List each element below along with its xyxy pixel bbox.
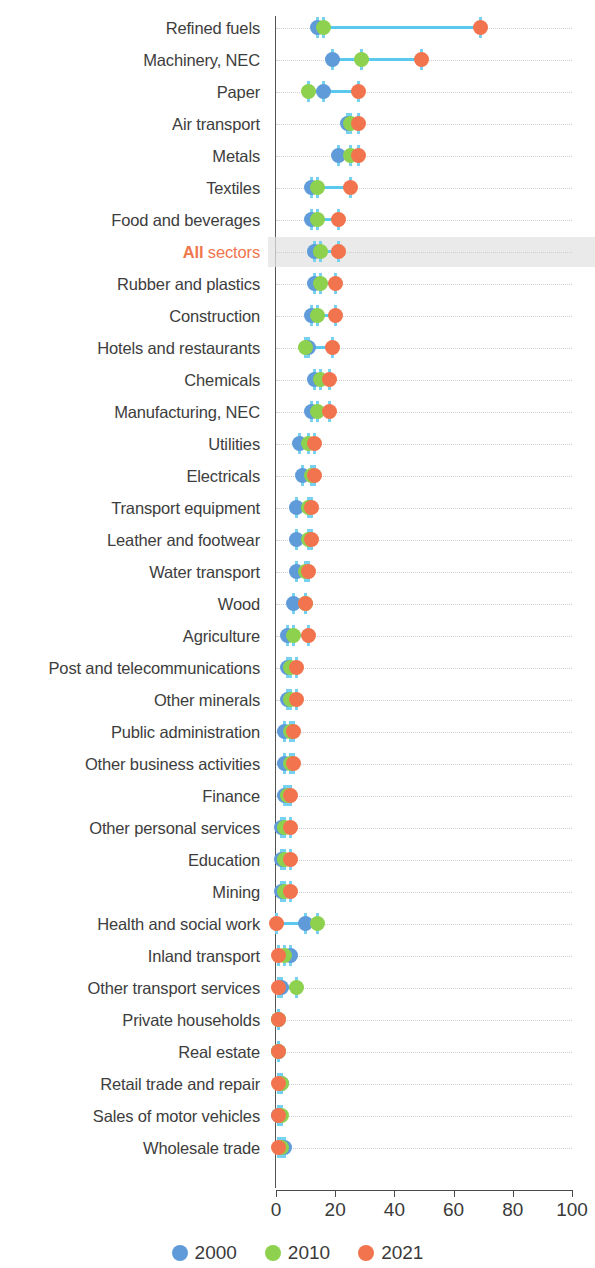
- gridline: [276, 508, 572, 509]
- gridline: [276, 604, 572, 605]
- data-point-2021[interactable]: [322, 404, 337, 419]
- gridline: [276, 124, 572, 125]
- data-point-2010[interactable]: [286, 628, 301, 643]
- category-label: Mining: [212, 876, 260, 908]
- data-point-2021[interactable]: [301, 564, 316, 579]
- data-point-2010[interactable]: [298, 340, 313, 355]
- data-point-2021[interactable]: [328, 308, 343, 323]
- data-point-2021[interactable]: [271, 1012, 286, 1027]
- gridline: [276, 668, 572, 669]
- data-point-2021[interactable]: [325, 340, 340, 355]
- data-point-2021[interactable]: [283, 788, 298, 803]
- data-point-2010[interactable]: [313, 244, 328, 259]
- chart-row: Water transport: [0, 556, 595, 588]
- data-point-2010[interactable]: [310, 180, 325, 195]
- gridline: [276, 1020, 572, 1021]
- data-point-2021[interactable]: [289, 692, 304, 707]
- data-point-2021[interactable]: [304, 532, 319, 547]
- gridline: [276, 700, 572, 701]
- category-label: Retail trade and repair: [100, 1068, 260, 1100]
- data-point-2021[interactable]: [301, 628, 316, 643]
- data-point-2021[interactable]: [351, 148, 366, 163]
- data-point-2021[interactable]: [414, 52, 429, 67]
- chart-row: All sectors: [0, 236, 595, 268]
- chart-row: Paper: [0, 76, 595, 108]
- chart-row: Food and beverages: [0, 204, 595, 236]
- category-label: All sectors: [183, 236, 260, 268]
- plot-area: Refined fuelsMachinery, NECPaperAir tran…: [0, 8, 595, 1180]
- data-point-2021[interactable]: [286, 724, 301, 739]
- chart-row: Agriculture: [0, 620, 595, 652]
- data-point-2010[interactable]: [316, 20, 331, 35]
- chart-row: Textiles: [0, 172, 595, 204]
- category-label: Machinery, NEC: [143, 44, 260, 76]
- chart-row: Refined fuels: [0, 12, 595, 44]
- data-point-2021[interactable]: [304, 500, 319, 515]
- data-point-2021[interactable]: [343, 180, 358, 195]
- data-point-2021[interactable]: [289, 660, 304, 675]
- data-point-2021[interactable]: [473, 20, 488, 35]
- category-label: Agriculture: [183, 620, 260, 652]
- gridline: [276, 1052, 572, 1053]
- gridline: [276, 1148, 572, 1149]
- gridline: [276, 988, 572, 989]
- data-point-2010[interactable]: [301, 84, 316, 99]
- x-axis-tick-label: 20: [325, 1199, 346, 1221]
- x-axis-tick: [335, 1190, 336, 1197]
- category-label: Other transport services: [88, 972, 260, 1004]
- category-label: Wood: [218, 588, 260, 620]
- chart-row: Finance: [0, 780, 595, 812]
- data-point-2021[interactable]: [283, 820, 298, 835]
- data-point-2010[interactable]: [354, 52, 369, 67]
- category-label: Electricals: [186, 460, 260, 492]
- data-point-2021[interactable]: [283, 884, 298, 899]
- data-point-2021[interactable]: [322, 372, 337, 387]
- data-point-2021[interactable]: [331, 212, 346, 227]
- category-label: Air transport: [172, 108, 260, 140]
- data-point-2010[interactable]: [289, 980, 304, 995]
- data-point-2000[interactable]: [316, 84, 331, 99]
- x-axis-tick: [394, 1190, 395, 1197]
- category-label: Leather and footwear: [107, 524, 260, 556]
- data-point-2021[interactable]: [307, 436, 322, 451]
- legend-item[interactable]: 2021: [358, 1242, 423, 1264]
- data-point-2021[interactable]: [271, 1044, 286, 1059]
- chart-row: Health and social work: [0, 908, 595, 940]
- gridline: [276, 572, 572, 573]
- data-point-2010[interactable]: [310, 308, 325, 323]
- chart-row: Hotels and restaurants: [0, 332, 595, 364]
- data-point-2010[interactable]: [310, 212, 325, 227]
- data-point-2021[interactable]: [283, 852, 298, 867]
- legend-dot-icon: [172, 1245, 188, 1261]
- category-label: Water transport: [149, 556, 260, 588]
- data-point-2010[interactable]: [313, 276, 328, 291]
- data-point-2021[interactable]: [307, 468, 322, 483]
- category-label: Manufacturing, NEC: [114, 396, 260, 428]
- gridline: [276, 1084, 572, 1085]
- legend-item[interactable]: 2010: [265, 1242, 330, 1264]
- gridline: [276, 636, 572, 637]
- category-label: Chemicals: [184, 364, 260, 396]
- chart-row: Metals: [0, 140, 595, 172]
- category-label: Public administration: [111, 716, 260, 748]
- data-point-2000[interactable]: [325, 52, 340, 67]
- chart-row: Education: [0, 844, 595, 876]
- data-point-2021[interactable]: [331, 244, 346, 259]
- data-point-2021[interactable]: [328, 276, 343, 291]
- data-point-2021[interactable]: [286, 756, 301, 771]
- chart-row: Wholesale trade: [0, 1132, 595, 1164]
- data-point-2010[interactable]: [310, 916, 325, 931]
- data-point-2021[interactable]: [269, 916, 284, 931]
- data-point-2021[interactable]: [298, 596, 313, 611]
- category-label: Inland transport: [148, 940, 260, 972]
- chart-row: Leather and footwear: [0, 524, 595, 556]
- data-point-2021[interactable]: [351, 116, 366, 131]
- chart-row: Other transport services: [0, 972, 595, 1004]
- category-label: Textiles: [206, 172, 260, 204]
- chart-row: Real estate: [0, 1036, 595, 1068]
- data-point-2021[interactable]: [351, 84, 366, 99]
- legend-item[interactable]: 2000: [172, 1242, 237, 1264]
- chart-row: Chemicals: [0, 364, 595, 396]
- chart-row: Sales of motor vehicles: [0, 1100, 595, 1132]
- category-label: Wholesale trade: [143, 1132, 260, 1164]
